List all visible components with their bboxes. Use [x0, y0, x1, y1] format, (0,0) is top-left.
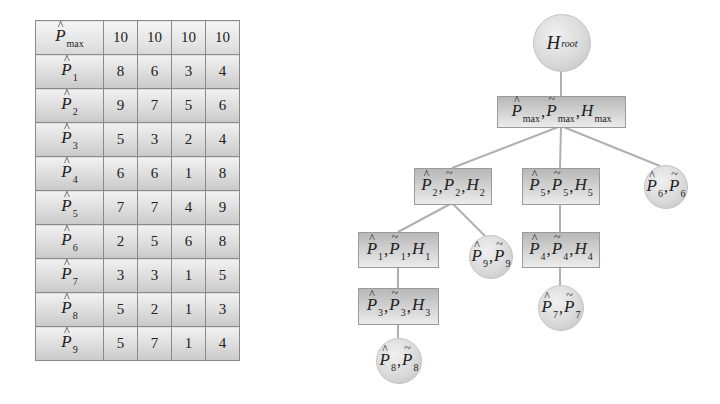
comma: , [439, 177, 443, 197]
comma: , [559, 299, 563, 317]
hat-accent: ^ [544, 290, 550, 302]
hat-accent: ^ [474, 239, 480, 251]
h-symbol: H1 [412, 239, 430, 262]
root-label: H [546, 32, 560, 54]
h-symbol: H2 [467, 175, 485, 198]
p-tilde-symbol: P~9 [494, 246, 510, 269]
comma: , [547, 177, 551, 197]
edge-max-n6 [561, 126, 660, 166]
p-hat-symbol: P^max [511, 101, 540, 124]
comma: , [384, 240, 388, 260]
tilde-accent: ~ [446, 167, 453, 179]
comma: , [569, 240, 573, 260]
comma: , [461, 177, 465, 197]
max-node: P^max,P~max,Hmax [497, 96, 626, 128]
node-p3: P^3,P~3,H3 [358, 288, 439, 325]
p-hat-symbol: P^9 [472, 246, 488, 269]
comma: , [407, 297, 411, 317]
tilde-accent: ~ [549, 93, 556, 105]
comma: , [664, 178, 668, 196]
hat-accent: ^ [424, 168, 430, 180]
tilde-accent: ~ [392, 287, 399, 299]
root-sub: root [561, 38, 577, 49]
h-symbol: H3 [412, 295, 430, 318]
node-p4: P^4,P~4,H4 [522, 232, 600, 268]
hat-accent: ^ [514, 94, 520, 106]
comma: , [397, 352, 401, 370]
h-symbol: H5 [575, 175, 593, 198]
p-tilde-symbol: P~6 [669, 176, 685, 199]
comma: , [541, 102, 545, 122]
hat-accent: ^ [369, 232, 375, 244]
node-p2: P^2,P~2,H2 [414, 168, 492, 205]
tree-edges [0, 0, 720, 404]
hat-accent: ^ [382, 343, 388, 355]
tilde-accent: ~ [554, 167, 561, 179]
p-tilde-symbol: P~3 [389, 295, 405, 318]
node-p7: P^7,P~7 [538, 285, 584, 331]
node-p9: P^9,P~9 [469, 235, 513, 279]
node-p1: P^1,P~1,H1 [358, 232, 439, 268]
h-symbol: H4 [575, 239, 593, 262]
hat-accent: ^ [532, 232, 538, 244]
p-hat-symbol: P^3 [367, 295, 383, 318]
p-tilde-symbol: P~max [546, 101, 575, 124]
node-p8: P^8,P~8 [376, 338, 422, 384]
hat-accent: ^ [649, 169, 655, 181]
p-tilde-symbol: P~4 [552, 239, 568, 262]
p-tilde-symbol: P~5 [552, 175, 568, 198]
edge-n2-n1 [398, 203, 452, 232]
h-symbol: Hmax [581, 101, 612, 124]
p-hat-symbol: P^7 [542, 297, 558, 320]
p-hat-symbol: P^1 [367, 239, 383, 262]
node-p6: P^6,P~6 [644, 165, 688, 209]
tilde-accent: ~ [392, 231, 399, 243]
comma: , [407, 240, 411, 260]
comma: , [384, 297, 388, 317]
p-hat-symbol: P^5 [529, 175, 545, 198]
edge-max-n5 [560, 126, 561, 168]
p-hat-symbol: P^4 [529, 239, 545, 262]
hat-accent: ^ [532, 168, 538, 180]
tilde-accent: ~ [404, 342, 411, 354]
node-p5: P^5,P~5,H5 [522, 168, 600, 205]
comma: , [489, 248, 493, 266]
p-tilde-symbol: P~1 [389, 239, 405, 262]
comma: , [576, 102, 580, 122]
comma: , [569, 177, 573, 197]
tilde-accent: ~ [566, 289, 573, 301]
hat-accent: ^ [369, 288, 375, 300]
comma: , [547, 240, 551, 260]
p-tilde-symbol: P~2 [444, 175, 460, 198]
p-hat-symbol: P^8 [380, 350, 396, 373]
edge-n2-n9 [452, 203, 485, 236]
root-node: Hroot [533, 14, 591, 72]
tilde-accent: ~ [554, 231, 561, 243]
tilde-accent: ~ [496, 238, 503, 250]
p-hat-symbol: P^2 [421, 175, 437, 198]
p-tilde-symbol: P~7 [564, 297, 580, 320]
edge-max-n2 [452, 126, 561, 168]
tilde-accent: ~ [671, 168, 678, 180]
p-hat-symbol: P^6 [647, 176, 663, 199]
p-tilde-symbol: P~8 [402, 350, 418, 373]
